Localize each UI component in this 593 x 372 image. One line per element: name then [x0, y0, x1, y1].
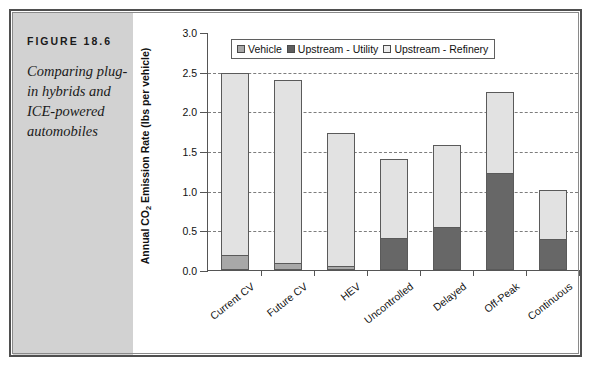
bar-segment-refinery	[222, 74, 248, 255]
x-axis-tick-label: Continuous	[525, 280, 574, 322]
figure-frame: FIGURE 18.6 Comparing plug-in hybrids an…	[9, 9, 582, 357]
bar-segment-refinery	[328, 134, 354, 267]
stacked-bar[interactable]	[327, 133, 355, 270]
bar-slot	[314, 33, 367, 270]
bar-segment-refinery	[434, 146, 460, 227]
y-axis-tick	[200, 152, 208, 153]
bar-segment-vehicle	[328, 267, 354, 269]
x-axis-tick-label: Current CV	[207, 280, 256, 322]
legend-label-vehicle: Vehicle	[248, 43, 282, 55]
x-axis-tick-label: HEV	[337, 280, 361, 303]
y-axis-title-suffix: Emission Rate (lbs per vehicle)	[139, 48, 151, 206]
y-axis-tick	[200, 112, 208, 113]
x-axis-tick	[420, 270, 421, 276]
stacked-bar[interactable]	[221, 73, 249, 270]
stacked-bar[interactable]	[539, 190, 567, 270]
y-axis-tick	[200, 271, 208, 272]
legend-label-upstream-refinery: Upstream - Refinery	[394, 43, 488, 55]
y-axis-tick-label: 2.5	[182, 67, 197, 79]
x-axis-tick-label: Uncontrolled	[361, 280, 415, 326]
x-axis-tick-label: Off-Peak	[481, 280, 521, 315]
legend-label-upstream-utility: Upstream - Utility	[298, 43, 379, 55]
y-axis-tick	[200, 192, 208, 193]
legend-swatch-icon-upstream-utility	[287, 45, 295, 53]
bar-segment-refinery	[275, 81, 301, 264]
y-axis-title-prefix: Annual CO	[139, 210, 151, 264]
bar-series-group	[208, 33, 578, 270]
figure-caption-panel: FIGURE 18.6 Comparing plug-in hybrids an…	[13, 13, 133, 355]
bar-slot	[367, 33, 420, 270]
figure-caption-text: Comparing plug-in hybrids and ICE-powere…	[27, 61, 131, 141]
x-axis-tick-label: Future CV	[264, 280, 309, 319]
bar-segment-utility	[540, 240, 566, 269]
x-axis-tick	[314, 270, 315, 276]
bar-segment-refinery	[487, 93, 513, 175]
bar-segment-refinery	[381, 160, 407, 239]
chart-region: Annual CO2 Emission Rate (lbs per vehicl…	[133, 13, 582, 355]
legend-item-vehicle: Vehicle	[237, 43, 282, 55]
y-axis-tick	[200, 33, 208, 34]
bar-segment-utility	[381, 239, 407, 269]
legend-item-upstream-utility: Upstream - Utility	[287, 43, 379, 55]
bar-slot	[526, 33, 579, 270]
y-axis-title-subscript: 2	[144, 206, 153, 210]
y-axis-tick	[200, 231, 208, 232]
stacked-bar[interactable]	[486, 92, 514, 271]
bar-segment-vehicle	[275, 264, 301, 269]
x-axis-tick	[526, 270, 527, 276]
x-axis-tick	[473, 270, 474, 276]
stacked-bar[interactable]	[433, 145, 461, 270]
figure-number: FIGURE 18.6	[27, 35, 132, 47]
bar-slot	[473, 33, 526, 270]
bar-slot	[261, 33, 314, 270]
y-axis-tick-label: 0.0	[182, 265, 197, 277]
y-axis-tick-label: 2.0	[182, 106, 197, 118]
y-axis-tick-label: 1.5	[182, 146, 197, 158]
bar-segment-utility	[487, 174, 513, 269]
stacked-bar[interactable]	[274, 80, 302, 270]
legend-item-upstream-refinery: Upstream - Refinery	[383, 43, 488, 55]
y-axis-tick-label: 0.5	[182, 225, 197, 237]
bar-slot	[208, 33, 261, 270]
bar-segment-utility	[434, 228, 460, 269]
x-axis-tick	[261, 270, 262, 276]
plot-area: 0.00.51.01.52.02.53.0 Current CVFuture C…	[207, 33, 578, 271]
bar-segment-refinery	[540, 191, 566, 240]
x-axis-tick	[579, 270, 580, 276]
y-axis-tick-label: 3.0	[182, 27, 197, 39]
chart-legend: Vehicle Upstream - Utility Upstream - Re…	[231, 39, 495, 59]
bar-segment-vehicle	[222, 256, 248, 269]
legend-swatch-icon-vehicle	[237, 45, 245, 53]
y-axis-tick	[200, 73, 208, 74]
stacked-bar[interactable]	[380, 159, 408, 270]
y-axis-title: Annual CO2 Emission Rate (lbs per vehicl…	[139, 31, 155, 281]
y-axis-tick-label: 1.0	[182, 186, 197, 198]
legend-swatch-icon-upstream-refinery	[383, 45, 391, 53]
x-axis-tick-label: Delayed	[430, 280, 468, 313]
bar-slot	[420, 33, 473, 270]
x-axis-tick	[367, 270, 368, 276]
